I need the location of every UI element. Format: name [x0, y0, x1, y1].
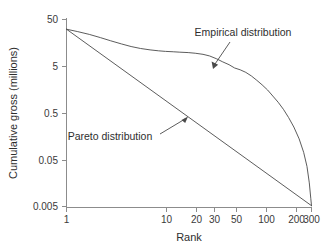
y-axis-ticks [62, 20, 67, 207]
y-tick-label-2: 0.5 [44, 108, 58, 119]
x-tick-label-5: 100 [258, 214, 275, 225]
x-axis-title: Rank [176, 231, 202, 243]
annotation-leader-empirical [215, 42, 230, 64]
x-tick-label-2: 20 [191, 214, 203, 225]
x-tick-label-7: 300 [303, 214, 320, 225]
chart-figure: 50 5 0.5 0.05 0.005 1 10 20 30 50 100 20… [0, 0, 326, 248]
y-axis-tick-labels: 50 5 0.5 0.05 0.005 [33, 14, 58, 212]
x-tick-label-4: 50 [231, 214, 243, 225]
chart-canvas: 50 5 0.5 0.05 0.005 1 10 20 30 50 100 20… [0, 0, 326, 248]
y-tick-label-3: 0.05 [39, 155, 59, 166]
x-axis-ticks [67, 208, 312, 213]
y-tick-label-0: 50 [47, 14, 59, 25]
x-tick-label-3: 30 [209, 214, 221, 225]
y-tick-label-1: 5 [52, 61, 58, 72]
series-line-pareto-distribution [67, 29, 312, 205]
y-tick-label-4: 0.005 [33, 201, 58, 212]
x-axis-tick-labels: 1 10 20 30 50 100 200 300 [64, 214, 321, 225]
annotation-leader-pareto [160, 119, 185, 134]
annotation-arrowhead-pareto [182, 117, 189, 124]
annotation-label-empirical: Empirical distribution [195, 26, 292, 38]
annotation-empirical-distribution: Empirical distribution [195, 26, 292, 69]
x-tick-label-1: 10 [161, 214, 173, 225]
annotation-pareto-distribution: Pareto distribution [68, 117, 188, 143]
annotation-arrowhead-empirical [212, 62, 219, 69]
y-axis-title: Cumulative gross (millions) [7, 47, 19, 179]
annotation-label-pareto: Pareto distribution [68, 130, 153, 142]
x-tick-label-0: 1 [64, 214, 70, 225]
